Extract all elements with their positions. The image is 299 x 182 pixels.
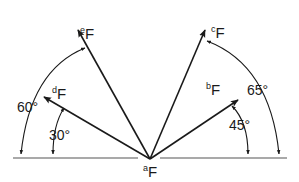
vector-e xyxy=(78,30,150,159)
label-e-superscript: e xyxy=(80,25,85,35)
angle-label-60: 60° xyxy=(17,100,38,114)
label-vector-c: cF xyxy=(211,25,225,41)
label-c-main: F xyxy=(216,24,225,41)
label-e-main: F xyxy=(85,25,94,42)
angle-label-30: 30° xyxy=(49,128,70,142)
label-origin-main: F xyxy=(148,163,157,180)
label-d-main: F xyxy=(57,85,66,102)
angle-label-65: 65° xyxy=(247,83,268,97)
label-vector-b: bF xyxy=(206,82,220,98)
label-b-main: F xyxy=(211,81,220,98)
label-d-superscript: d xyxy=(52,85,57,95)
label-origin-superscript: a xyxy=(143,163,148,173)
label-vector-e: eF xyxy=(80,26,94,42)
label-c-superscript: c xyxy=(211,24,216,34)
label-b-superscript: b xyxy=(206,81,211,91)
label-vector-d: dF xyxy=(52,86,66,102)
label-origin: aF xyxy=(143,164,157,180)
angle-label-45: 45° xyxy=(229,118,250,132)
